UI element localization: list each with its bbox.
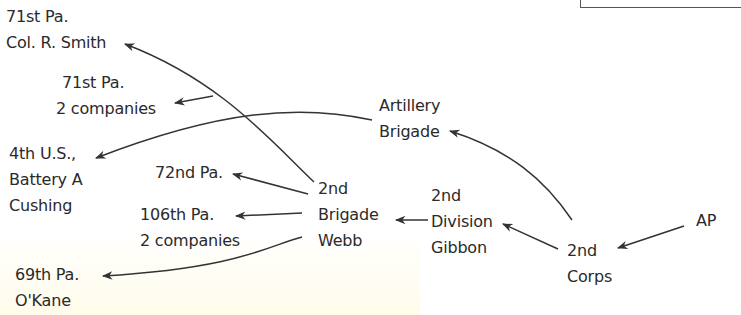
node-ap: AP: [696, 208, 716, 234]
edge-brigade-106th: [236, 213, 302, 216]
node-line: 2nd: [318, 176, 379, 202]
node-line: Cushing: [9, 193, 82, 219]
edge-brigade-71st-2co: [175, 96, 213, 103]
node-line: 4th U.S.,: [9, 141, 82, 167]
node-2nd-brigade-webb: 2nd Brigade Webb: [318, 176, 379, 254]
node-cushing: 4th U.S., Battery A Cushing: [9, 141, 82, 219]
edge-ap-corps: [618, 226, 684, 248]
node-line: Webb: [318, 228, 379, 254]
node-line: 72nd Pa.: [155, 160, 223, 186]
node-line: 106th Pa.: [140, 202, 240, 228]
node-line: 2 companies: [140, 228, 240, 254]
node-72nd: 72nd Pa.: [155, 160, 223, 186]
node-line: 71st Pa.: [6, 4, 106, 30]
node-106th: 106th Pa. 2 companies: [140, 202, 240, 254]
node-line: 2nd: [431, 183, 493, 209]
node-line: 2nd: [567, 238, 612, 264]
node-line: Battery A: [9, 167, 82, 193]
node-line: O'Kane: [15, 288, 79, 314]
node-2nd-division-gibbon: 2nd Division Gibbon: [431, 183, 493, 261]
node-2nd-corps: 2nd Corps: [567, 238, 612, 290]
node-71st-smith: 71st Pa. Col. R. Smith: [6, 4, 106, 56]
edge-brigade-72nd: [233, 174, 308, 194]
node-line: AP: [696, 208, 716, 234]
node-line: Division: [431, 209, 493, 235]
node-69th-okane: 69th Pa. O'Kane: [15, 262, 79, 314]
node-line: Col. R. Smith: [6, 30, 106, 56]
node-line: Corps: [567, 264, 612, 290]
node-71st-2-companies: 71st Pa. 2 companies: [56, 70, 156, 122]
node-line: 71st Pa.: [56, 70, 156, 96]
node-line: Brigade: [379, 119, 440, 145]
node-line: Gibbon: [431, 235, 493, 261]
node-line: Brigade: [318, 202, 379, 228]
node-line: 69th Pa.: [15, 262, 79, 288]
edge-corps-division: [503, 224, 558, 249]
node-artillery-brigade: Artillery Brigade: [379, 93, 440, 145]
node-line: Artillery: [379, 93, 440, 119]
node-line: 2 companies: [56, 96, 156, 122]
